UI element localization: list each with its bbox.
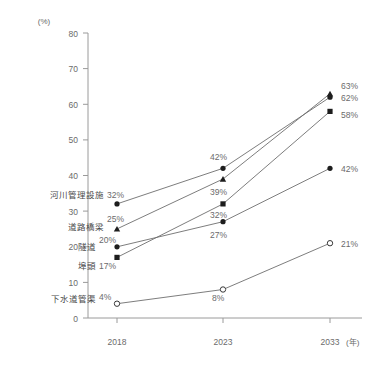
value-label-tunnel-2023: 27% xyxy=(210,230,227,240)
y-tick-label-50: 50 xyxy=(69,135,79,145)
x-tick-label-2018: 2018 xyxy=(108,337,127,347)
marker-bridge-2033 xyxy=(327,91,333,97)
marker-river-2018 xyxy=(114,201,119,206)
marker-sewer-2018 xyxy=(114,301,119,306)
value-label-river-2033: 62% xyxy=(341,93,358,103)
marker-wharf-2018 xyxy=(114,255,119,260)
marker-tunnel-2033 xyxy=(327,166,332,171)
value-label-bridge-2023: 39% xyxy=(210,187,227,197)
value-label-bridge-2018: 25% xyxy=(107,214,124,224)
chart-canvas: (%) 80 70 60 50 40 30 20 10 0 2018 2023 … xyxy=(0,0,380,368)
value-label-wharf-2023: 32% xyxy=(210,210,227,220)
value-label-wharf-2033: 58% xyxy=(341,110,358,120)
value-label-bridge-2033: 63% xyxy=(341,81,358,91)
y-tick-label-20: 20 xyxy=(69,242,79,252)
series-label-bridge: 道路橋梁 xyxy=(68,222,104,232)
series-label-river: 河川管理設施 xyxy=(50,190,104,200)
value-label-tunnel-2033: 42% xyxy=(341,164,358,174)
y-tick-label-30: 30 xyxy=(69,207,79,217)
y-tick-label-60: 60 xyxy=(69,100,79,110)
value-label-sewer-2023: 8% xyxy=(212,293,225,303)
value-label-sewer-2033: 21% xyxy=(341,239,358,249)
value-label-river-2023: 42% xyxy=(210,152,227,162)
value-label-tunnel-2018: 20% xyxy=(99,235,116,245)
y-tick-label-80: 80 xyxy=(69,29,79,39)
y-tick-label-40: 40 xyxy=(69,171,79,181)
x-tick-label-2023: 2023 xyxy=(214,337,233,347)
marker-bridge-2018 xyxy=(114,226,120,232)
marker-sewer-2023 xyxy=(220,287,225,292)
marker-tunnel-2023 xyxy=(220,219,225,224)
marker-wharf-2033 xyxy=(327,109,332,114)
series-label-sewer: 下水道管渠 xyxy=(51,294,96,304)
y-axis-unit-label: (%) xyxy=(38,17,51,26)
value-label-river-2018: 32% xyxy=(107,190,124,200)
value-label-wharf-2018: 17% xyxy=(99,261,116,271)
x-tick-label-2033: 2033 xyxy=(321,337,340,347)
y-tick-label-10: 10 xyxy=(69,278,79,288)
series-label-wharf: 埠頭 xyxy=(78,261,96,271)
marker-river-2023 xyxy=(220,166,225,171)
value-label-sewer-2018: 4% xyxy=(99,292,112,302)
marker-sewer-2033 xyxy=(327,241,332,246)
marker-wharf-2023 xyxy=(220,201,225,206)
line-chart: (%) 80 70 60 50 40 30 20 10 0 2018 2023 … xyxy=(0,0,380,368)
y-tick-label-70: 70 xyxy=(69,64,79,74)
series-label-tunnel: 隧道 xyxy=(78,242,96,252)
y-tick-label-0: 0 xyxy=(73,314,78,324)
x-axis-year-unit-label: (年) xyxy=(346,337,360,347)
